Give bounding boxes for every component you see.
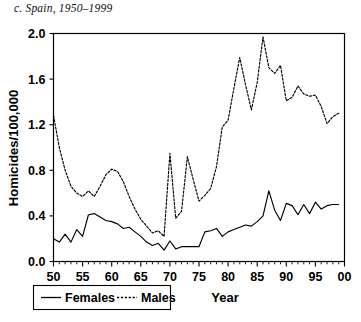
- y-tick-label: 0.8: [28, 164, 45, 178]
- x-tick-label: 85: [250, 270, 264, 284]
- y-tick-label: 2.0: [28, 27, 45, 41]
- line-chart: 0.00.40.81.21.62.0 505560657075808590950…: [0, 0, 361, 322]
- figure-panel: c. Spain, 1950–1999 0.00.40.81.21.62.0 5…: [0, 0, 361, 322]
- y-tick-label: 0.4: [28, 209, 45, 223]
- y-tick-label: 0.0: [28, 255, 45, 269]
- x-axis-ticks: [54, 262, 345, 267]
- y-tick-label: 1.2: [28, 118, 45, 132]
- chart-legend: Females Males: [34, 286, 176, 310]
- plot-frame: [54, 34, 345, 262]
- x-tick-label: 50: [47, 270, 61, 284]
- series-line-males: [54, 37, 339, 237]
- x-tick-label: 95: [308, 270, 322, 284]
- x-tick-label: 60: [105, 270, 119, 284]
- x-tick-label: 55: [76, 270, 90, 284]
- x-axis-tick-labels: 5055606570758085909500: [47, 270, 352, 284]
- x-tick-label: 80: [221, 270, 235, 284]
- y-axis-title: Homicides/100,000: [6, 90, 21, 206]
- y-axis-tick-labels: 0.00.40.81.21.62.0: [28, 27, 45, 269]
- legend-label-females: Females: [65, 291, 115, 305]
- x-axis-title: Year: [211, 290, 238, 305]
- legend-label-males: Males: [141, 291, 176, 305]
- x-tick-label: 00: [338, 270, 352, 284]
- series-line-females: [54, 191, 339, 250]
- x-tick-label: 75: [192, 270, 206, 284]
- x-tick-label: 65: [134, 270, 148, 284]
- x-tick-label: 70: [163, 270, 177, 284]
- data-series-group: [54, 37, 339, 250]
- y-tick-label: 1.6: [28, 73, 45, 87]
- x-tick-label: 90: [279, 270, 293, 284]
